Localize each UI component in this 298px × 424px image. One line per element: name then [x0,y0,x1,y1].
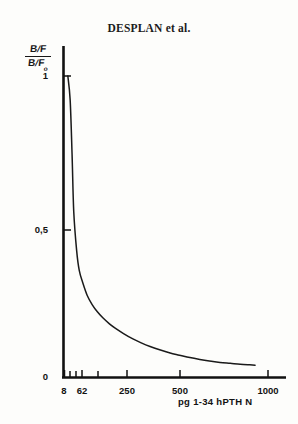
x-tick-marks [65,370,269,377]
displacement-curve [68,76,255,365]
axes-group [62,46,286,378]
figure-panel: B/F B/Fo 1 0,5 0 8 62 250 500 1000 pg 1-… [0,0,298,424]
plot-canvas [0,0,298,424]
